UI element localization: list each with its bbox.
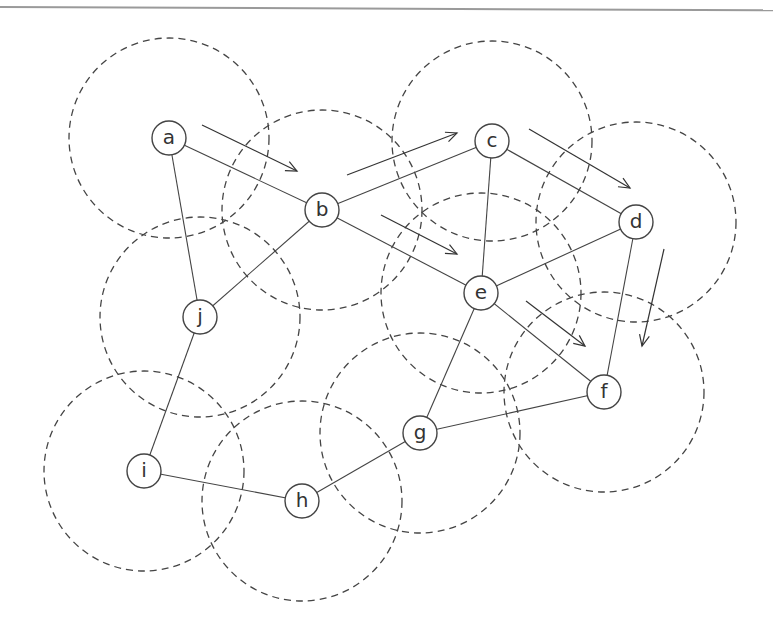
edge-h-i xyxy=(144,471,302,501)
node-a: a xyxy=(152,121,186,155)
node-e: e xyxy=(464,276,498,310)
edge-g-h xyxy=(302,433,420,501)
node-label: e xyxy=(475,280,487,304)
route-arrow-c-d xyxy=(529,129,630,188)
transmission-ranges xyxy=(44,38,736,601)
edge-a-j xyxy=(169,138,200,317)
route-arrow-b-e xyxy=(381,215,457,254)
node-i: i xyxy=(127,454,161,488)
node-label: f xyxy=(600,379,608,403)
node-label: b xyxy=(316,197,329,221)
edge-a-b xyxy=(169,138,322,210)
route-arrow-d-f xyxy=(642,249,664,346)
node-h: h xyxy=(285,484,319,518)
node-label: j xyxy=(196,304,203,328)
node-b: b xyxy=(305,193,339,227)
edge-d-e xyxy=(481,222,636,293)
node-j: j xyxy=(183,300,217,334)
edge-d-f xyxy=(604,222,636,392)
edge-b-c xyxy=(322,141,492,210)
node-g: g xyxy=(403,416,437,450)
edge-b-j xyxy=(200,210,322,317)
node-d: d xyxy=(619,205,653,239)
route-arrows xyxy=(202,125,664,346)
node-label: h xyxy=(296,488,309,512)
edge-c-e xyxy=(481,141,492,293)
edge-i-j xyxy=(144,317,200,471)
route-arrow-b-c xyxy=(347,133,457,175)
node-c: c xyxy=(475,124,509,158)
node-label: a xyxy=(163,125,175,149)
network-diagram: abcdefghij xyxy=(0,0,773,640)
route-arrow-e-f xyxy=(526,301,585,346)
edge-b-e xyxy=(322,210,481,293)
links xyxy=(144,138,636,501)
route-arrow-a-b xyxy=(202,125,297,171)
node-label: g xyxy=(414,420,427,444)
node-label: i xyxy=(141,458,147,482)
edge-f-g xyxy=(420,392,604,433)
node-label: d xyxy=(630,209,643,233)
node-f: f xyxy=(587,375,621,409)
node-label: c xyxy=(487,128,498,152)
edge-e-g xyxy=(420,293,481,433)
nodes: abcdefghij xyxy=(127,121,653,518)
